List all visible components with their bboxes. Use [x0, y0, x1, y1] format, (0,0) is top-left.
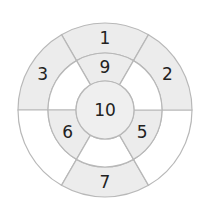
- ring-diagram: 137296510: [0, 0, 205, 213]
- outer-ring-label: 7: [100, 172, 111, 192]
- outer-ring-label: 2: [162, 64, 173, 84]
- middle-ring-label: 5: [137, 122, 148, 142]
- outer-ring-label: 1: [100, 28, 111, 48]
- middle-ring-label: 6: [62, 122, 73, 142]
- center-label: 10: [94, 100, 116, 120]
- middle-ring-label: 9: [100, 57, 111, 77]
- outer-ring-label: 3: [37, 64, 48, 84]
